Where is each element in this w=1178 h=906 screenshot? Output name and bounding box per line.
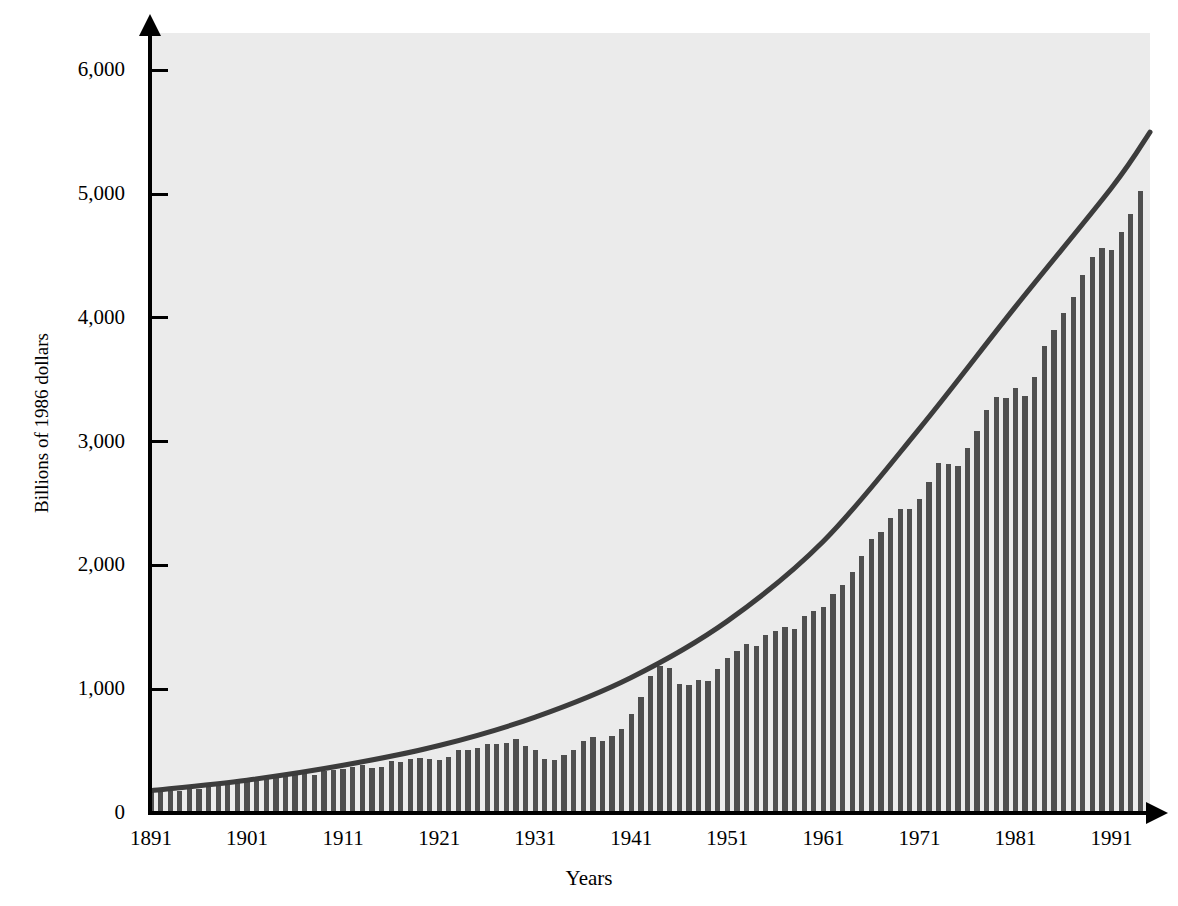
- x-axis-tick-label: 1991: [1067, 828, 1157, 849]
- x-axis-arrow-icon: [1146, 802, 1168, 824]
- y-axis-tick-label: 5,000: [21, 183, 125, 204]
- x-axis-tick-label: 1921: [394, 828, 484, 849]
- y-axis-tick: [151, 688, 168, 691]
- y-axis-line: [148, 30, 152, 815]
- x-axis-tick-label: 1931: [490, 828, 580, 849]
- y-axis-tick: [151, 440, 168, 443]
- y-axis-tick: [151, 564, 168, 567]
- x-axis-tick-label: 1961: [778, 828, 868, 849]
- x-axis-tick-label: 1941: [586, 828, 676, 849]
- y-axis-tick-label: 0: [21, 802, 125, 823]
- y-axis-tick-label: 2,000: [21, 554, 125, 575]
- x-axis-line: [148, 811, 1148, 815]
- x-axis-tick-label: 1951: [682, 828, 772, 849]
- y-axis-tick-label: 6,000: [21, 59, 125, 80]
- x-axis-tick-label: 1901: [202, 828, 292, 849]
- y-axis-title: Billions of 1986 dollars: [31, 293, 53, 553]
- x-axis-tick-label: 1971: [875, 828, 965, 849]
- trend-line-layer: [151, 33, 1150, 813]
- y-axis-tick: [151, 316, 168, 319]
- plot-inner: [151, 33, 1150, 813]
- y-axis-tick-label: 1,000: [21, 678, 125, 699]
- plot-area: [151, 33, 1150, 813]
- x-axis-title: Years: [0, 866, 1178, 891]
- x-axis-tick-label: 1981: [971, 828, 1061, 849]
- x-axis-tick-label: 1891: [106, 828, 196, 849]
- chart-figure: 01,0002,0003,0004,0005,0006,000 18911901…: [0, 0, 1178, 906]
- trend-line: [151, 132, 1150, 791]
- x-axis-tick-label: 1911: [298, 828, 388, 849]
- y-axis-arrow-icon: [139, 14, 161, 36]
- y-axis-tick: [151, 69, 168, 72]
- y-axis-tick: [151, 193, 168, 196]
